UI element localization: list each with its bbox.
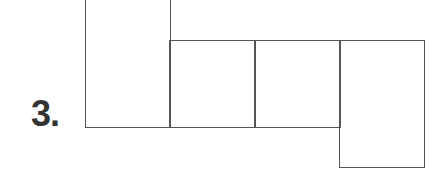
net-face-square-2: [254, 40, 341, 128]
net-face-tall-left: [85, 0, 171, 128]
net-face-square-1: [169, 40, 256, 128]
net-face-tall-right: [339, 40, 425, 168]
problem-number: 3.: [31, 96, 59, 132]
